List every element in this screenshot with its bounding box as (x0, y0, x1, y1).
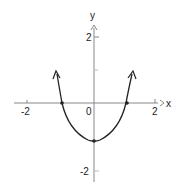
point-vertex (92, 139, 96, 143)
y-tick-label-pos2: 2 (86, 32, 92, 43)
point-x-intercept-left (60, 101, 64, 105)
x-tick-label-pos2: 2 (152, 106, 158, 117)
left-arrow-icon (53, 71, 60, 79)
graph: y x 0 -2 2 2 -2 (0, 0, 184, 192)
x-tick-label-neg2: -2 (21, 106, 30, 117)
point-x-intercept-right (125, 101, 129, 105)
y-axis-label: y (90, 10, 95, 21)
x-axis-arrow-icon (160, 100, 164, 106)
origin-label: 0 (86, 106, 92, 117)
y-tick-label-neg2: -2 (80, 166, 89, 177)
x-axis-label: x (166, 98, 171, 109)
